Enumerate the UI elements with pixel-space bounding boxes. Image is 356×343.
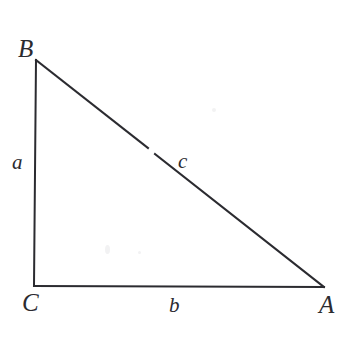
- side-label-b: b: [169, 295, 180, 316]
- vertex-label-c: C: [22, 290, 39, 315]
- triangle-side-a: [34, 60, 36, 286]
- triangle-side-c-upper: [36, 60, 148, 148]
- vertex-label-b: B: [18, 36, 33, 61]
- vertex-label-a: A: [319, 292, 334, 317]
- triangle-figure: B C A a b c: [0, 0, 356, 343]
- side-label-a: a: [12, 152, 23, 173]
- triangle-side-c-lower: [155, 154, 324, 287]
- triangle-side-b: [34, 286, 324, 287]
- side-label-c: c: [178, 151, 187, 172]
